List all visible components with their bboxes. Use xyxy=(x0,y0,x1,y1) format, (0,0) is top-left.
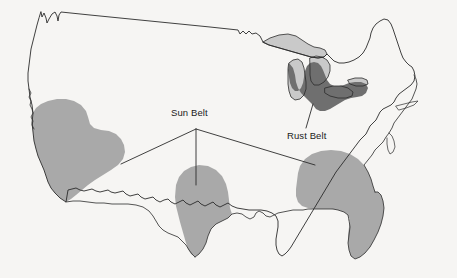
rust-belt-leader-line xyxy=(306,104,313,128)
label-sun-belt: Sun Belt xyxy=(171,107,208,118)
label-rust-belt: Rust Belt xyxy=(287,130,326,141)
region-sun-belt-west xyxy=(32,99,125,202)
southern-border-detail xyxy=(66,201,195,257)
us-region-map-figure: Sun Belt Rust Belt xyxy=(0,0,457,278)
map-graphic xyxy=(0,0,457,278)
atlantic-coast-detail xyxy=(364,75,417,192)
region-sun-belt-texas xyxy=(175,165,232,257)
chesapeake-bay-detail xyxy=(387,133,395,154)
